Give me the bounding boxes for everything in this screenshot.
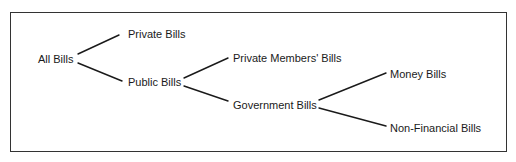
edge-public-pmb	[184, 58, 228, 78]
edge-all-public	[78, 63, 122, 81]
node-private-bills: Private Bills	[128, 28, 185, 41]
edges-layer	[0, 0, 516, 162]
node-money-bills: Money Bills	[390, 68, 446, 81]
edge-gov-nonfin	[319, 108, 386, 126]
edge-all-private	[78, 35, 119, 54]
node-government-bills: Government Bills	[233, 99, 317, 112]
node-all-bills: All Bills	[38, 53, 73, 66]
node-non-financial-bills: Non-Financial Bills	[390, 122, 481, 135]
edge-public-gov	[184, 86, 228, 101]
edge-gov-money	[319, 73, 386, 100]
node-public-bills: Public Bills	[128, 76, 181, 89]
node-private-members-bills: Private Members' Bills	[233, 52, 341, 65]
